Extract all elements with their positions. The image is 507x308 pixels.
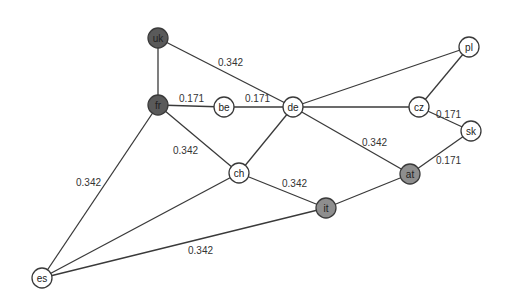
node-label: sk	[466, 126, 477, 137]
node-label: be	[218, 102, 230, 113]
node-cz: cz	[409, 97, 429, 117]
edge-label-fr-ch: 0.342	[173, 145, 198, 156]
node-label: cz	[414, 102, 424, 113]
edge-label-fr-be: 0.171	[179, 93, 204, 104]
edge-it-es	[42, 208, 326, 278]
network-graph: 0.3420.1710.1710.3420.3420.3420.1710.171…	[0, 0, 507, 308]
node-it: it	[316, 198, 336, 218]
edge-de-ch	[239, 107, 293, 173]
edge-at-it	[326, 174, 410, 208]
node-label: es	[37, 273, 48, 284]
node-label: pl	[465, 42, 473, 53]
edge-label-sk-at: 0.171	[436, 155, 461, 166]
node-label: at	[406, 169, 415, 180]
edge-label-it-es: 0.342	[188, 245, 213, 256]
edge-de-at	[293, 107, 410, 174]
nodes-layer: ukfrbedeplczskchatites	[32, 28, 481, 288]
node-label: de	[287, 102, 299, 113]
edge-labels-layer: 0.3420.1710.1710.3420.3420.3420.1710.171…	[76, 57, 461, 256]
edge-de-pl	[293, 47, 469, 107]
edge-label-ch-it: 0.342	[282, 178, 307, 189]
node-label: it	[324, 203, 329, 214]
node-label: ch	[234, 168, 245, 179]
node-sk: sk	[461, 121, 481, 141]
edge-sk-at	[410, 131, 471, 174]
node-uk: uk	[148, 28, 168, 48]
edge-label-fr-es: 0.342	[76, 177, 101, 188]
node-es: es	[32, 268, 52, 288]
node-label: fr	[155, 100, 162, 111]
node-fr: fr	[148, 95, 168, 115]
node-be: be	[214, 97, 234, 117]
edge-label-be-de: 0.171	[245, 93, 270, 104]
edge-ch-es	[42, 173, 239, 278]
edge-label-de-at: 0.342	[362, 137, 387, 148]
node-de: de	[283, 97, 303, 117]
node-at: at	[400, 164, 420, 184]
edge-fr-es	[42, 105, 158, 278]
node-pl: pl	[459, 37, 479, 57]
edges-layer	[42, 38, 471, 278]
edge-label-uk-de: 0.342	[218, 57, 243, 68]
node-label: uk	[153, 33, 165, 44]
edge-label-cz-sk: 0.171	[436, 109, 461, 120]
node-ch: ch	[229, 163, 249, 183]
